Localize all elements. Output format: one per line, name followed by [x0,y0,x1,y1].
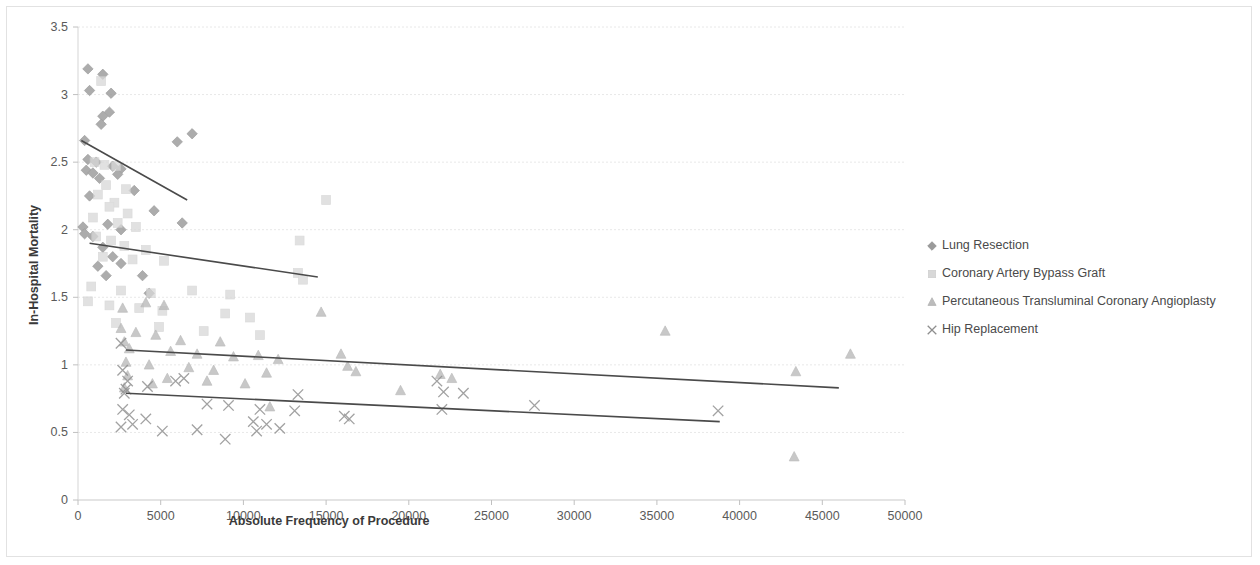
data-point [116,422,126,432]
y-tick-label: 2 [61,223,68,237]
data-point [160,256,169,265]
legend-label: Lung Resection [942,238,1029,252]
data-point [103,219,113,229]
data-point [261,419,271,429]
data-point [128,255,137,264]
data-point [100,160,109,169]
data-point [170,376,180,386]
data-point [791,366,801,375]
series-lung-resection [78,64,198,299]
y-tick-label: 2.5 [51,155,68,169]
data-point [83,64,93,74]
data-point [118,303,128,312]
data-point [316,307,326,316]
data-point [101,270,111,280]
data-point [159,300,169,309]
legend-item-hip-replacement[interactable]: Hip Replacement [928,322,1039,336]
legend-marker-triangle-icon [928,298,936,306]
data-point [437,404,447,414]
data-point [149,206,159,216]
data-point [713,406,723,416]
data-point [90,158,99,167]
data-point [137,270,147,280]
data-point [251,426,261,436]
trendline-percutaneous-transluminal-coronary-angioplasty [126,350,839,388]
data-point [117,404,127,414]
x-tick-label: 30000 [557,509,592,523]
data-point [122,185,131,194]
data-point [166,346,176,355]
legend-marker-cross-icon [928,326,937,335]
data-point [93,261,103,271]
data-point [192,425,202,435]
data-point [660,326,670,335]
data-point [123,209,132,218]
legend-label: Hip Replacement [942,322,1038,336]
data-point [105,202,114,211]
data-point [172,137,182,147]
data-point [396,385,406,394]
data-point [265,402,275,411]
legend-item-percutaneous-transluminal-coronary-angioplasty[interactable]: Percutaneous Transluminal Coronary Angio… [928,294,1217,308]
chart-svg: 0500010000150002000025000300003500040000… [0,0,1260,565]
data-point [188,286,197,295]
data-point [240,379,250,388]
x-tick-label: 40000 [722,509,757,523]
chart-legend: Lung ResectionCoronary Artery Bypass Gra… [928,238,1217,336]
data-point [144,360,154,369]
trendlines [81,141,839,422]
legend-item-coronary-artery-bypass-graft[interactable]: Coronary Artery Bypass Graft [928,266,1105,280]
data-point [177,218,187,228]
data-point [147,379,157,388]
trendline-coronary-artery-bypass-graft [90,243,318,277]
y-tick-label: 1.5 [51,290,68,304]
data-point [121,357,131,366]
data-point [176,335,186,344]
legend-marker-diamond-icon [928,242,937,251]
x-tick-label: 45000 [805,509,840,523]
data-point [108,252,118,262]
data-point [223,400,233,410]
data-point [458,388,468,398]
data-point [113,219,122,228]
data-point [141,414,151,424]
series-coronary-artery-bypass-graft [84,77,331,340]
legend-item-lung-resection[interactable]: Lung Resection [928,238,1029,252]
y-tick-label: 3 [61,88,68,102]
data-point [102,181,111,190]
data-point [84,297,93,306]
data-point [529,400,539,410]
x-tick-label: 25000 [474,509,509,523]
tick-marks [73,27,905,505]
data-point [253,350,263,359]
data-point [226,290,235,299]
data-point [117,286,126,295]
x-tick-label: 35000 [640,509,675,523]
data-point [248,416,258,426]
chart-page: 0500010000150002000025000300003500040000… [0,0,1260,565]
data-point [124,410,134,420]
x-tick-label: 50000 [888,509,923,523]
data-point [262,368,272,377]
data-point [789,452,799,461]
data-point [215,337,225,346]
data-point [322,196,331,205]
data-point [246,313,255,322]
data-point [84,85,94,95]
data-point [299,275,308,284]
data-point-markers [78,64,856,461]
data-point [202,399,212,409]
data-point [88,213,97,222]
x-tick-label: 0 [75,509,82,523]
data-point [97,77,106,86]
data-point [141,246,150,255]
gridlines [78,27,905,432]
data-point [221,309,230,318]
data-point [187,129,197,139]
data-point [295,236,304,245]
data-point [289,406,299,416]
x-tick-label: 5000 [147,509,175,523]
legend-label: Coronary Artery Bypass Graft [942,266,1106,280]
data-point [112,162,121,171]
data-point [162,373,172,382]
